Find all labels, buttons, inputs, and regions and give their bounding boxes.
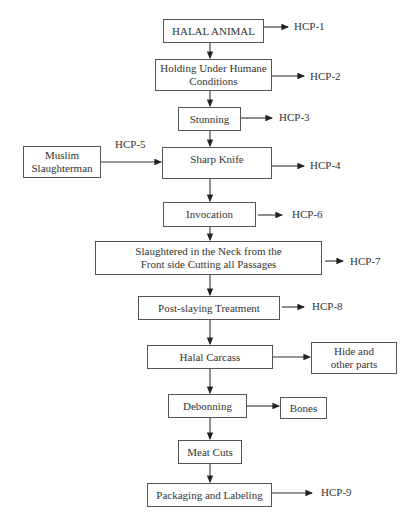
node-sharp-knife: Sharp Knife <box>162 147 272 179</box>
node-label: Halal Carcass <box>180 351 241 364</box>
hcp-1-label: HCP-1 <box>294 20 325 32</box>
hcp-5-label: HCP-5 <box>115 138 146 150</box>
hcp-7-label: HCP-7 <box>350 255 381 267</box>
node-debonning: Debonning <box>168 394 247 418</box>
node-post-slaying: Post-slaying Treatment <box>138 296 280 320</box>
node-label: Post-slaying Treatment <box>158 302 260 315</box>
node-label: Muslim Slaughterman <box>31 149 92 175</box>
node-label: Invocation <box>186 208 233 221</box>
node-label: Bones <box>290 402 318 415</box>
node-label: Stunning <box>190 113 230 126</box>
hcp-3-label: HCP-3 <box>279 111 310 123</box>
node-label: Meat Cuts <box>187 446 233 459</box>
node-halal-animal: HALAL ANIMAL <box>163 19 264 43</box>
hcp-8-label: HCP-8 <box>312 300 343 312</box>
node-label: HALAL ANIMAL <box>172 25 255 38</box>
node-slaughtered: Slaughtered in the Neck from the Front s… <box>95 241 322 275</box>
node-hide: Hide and other parts <box>311 342 397 374</box>
node-label: Slaughtered in the Neck from the Front s… <box>126 245 291 271</box>
node-label: Debonning <box>183 400 232 413</box>
node-bones: Bones <box>280 397 327 419</box>
hcp-9-label: HCP-9 <box>321 486 352 498</box>
node-muslim-slaughterman: Muslim Slaughterman <box>23 146 101 178</box>
node-label: Hide and other parts <box>324 345 384 371</box>
node-halal-carcass: Halal Carcass <box>147 345 273 369</box>
node-stunning: Stunning <box>178 107 241 131</box>
node-holding: Holding Under Humane Conditions <box>155 59 272 91</box>
hcp-6-label: HCP-6 <box>292 208 323 220</box>
node-label: Packaging and Labeling <box>156 489 262 502</box>
hcp-4-label: HCP-4 <box>310 159 341 171</box>
node-label: Holding Under Humane Conditions <box>160 62 267 88</box>
node-packaging: Packaging and Labeling <box>147 483 272 507</box>
node-label: Sharp Knife <box>190 153 243 166</box>
node-meat-cuts: Meat Cuts <box>178 440 242 464</box>
hcp-2-label: HCP-2 <box>310 70 341 82</box>
node-invocation: Invocation <box>163 202 256 227</box>
